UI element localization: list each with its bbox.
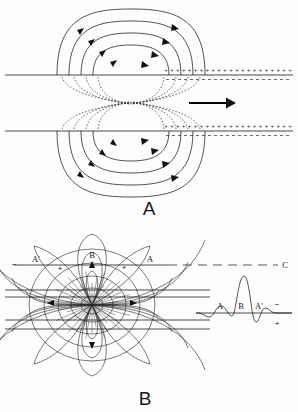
charge-symbol-positive: +	[217, 123, 221, 129]
charge-symbol-positive: +	[271, 123, 275, 129]
charge-symbol-positive: +	[276, 123, 280, 129]
panel-b-waveform: A B A′ − +	[196, 276, 292, 328]
waveform-label-b: B	[238, 301, 244, 311]
charge-symbol-positive: +	[188, 123, 192, 129]
charge-symbol-positive: +	[241, 123, 245, 129]
charge-mark-center-negative: −	[91, 260, 96, 269]
panel-a-charge-row-lower: ++++++++++++++++++++++	[164, 123, 292, 129]
panel-b-group: C A′ B A − + + − A B A′ − + B	[0, 234, 292, 409]
panel-a-letter: A	[143, 198, 156, 219]
charge-symbol-positive: +	[271, 67, 275, 73]
propagation-arrow-icon	[189, 98, 236, 109]
panel-a-charge-row-upper: ++++++++++++++++++++++	[164, 67, 292, 73]
charge-symbol-positive: +	[206, 123, 210, 129]
field-line-diagram: ++++++++++++++++++++++ +++++++++++++++++…	[0, 0, 298, 412]
waveform-polarity-positive: +	[275, 319, 280, 328]
charge-symbol-positive: +	[282, 123, 286, 129]
lead-label-c: C	[282, 260, 288, 270]
charge-symbol-positive: +	[217, 67, 221, 73]
charge-symbol-positive: +	[188, 67, 192, 73]
charge-symbol-positive: +	[235, 67, 239, 73]
charge-symbol-positive: +	[194, 67, 198, 73]
charge-symbol-positive: +	[265, 123, 269, 129]
charge-symbol-positive: +	[211, 123, 215, 129]
charge-symbol-positive: +	[288, 123, 292, 129]
charge-symbol-positive: +	[211, 67, 215, 73]
charge-symbol-positive: +	[259, 123, 263, 129]
charge-symbol-positive: +	[194, 123, 198, 129]
charge-symbol-positive: +	[235, 123, 239, 129]
charge-symbol-positive: +	[176, 123, 180, 129]
panel-a-group: ++++++++++++++++++++++ +++++++++++++++++…	[5, 9, 293, 219]
charge-symbol-positive: +	[182, 67, 186, 73]
charge-symbol-positive: +	[206, 67, 210, 73]
charge-symbol-positive: +	[247, 67, 251, 73]
charge-symbol-positive: +	[288, 67, 292, 73]
dipole-radial-line	[56, 306, 89, 320]
charge-symbol-positive: +	[276, 67, 280, 73]
field-label-a: A	[147, 254, 154, 264]
charge-mark-left-positive: +	[58, 264, 63, 273]
charge-symbol-positive: +	[182, 123, 186, 129]
charge-symbol-positive: +	[259, 67, 263, 73]
charge-symbol-positive: +	[282, 67, 286, 73]
charge-symbol-positive: +	[164, 67, 168, 73]
waveform-polarity-negative: −	[275, 300, 280, 309]
panel-a-dashed-field-lines	[62, 77, 200, 129]
charge-symbol-positive: +	[223, 123, 227, 129]
charge-symbol-positive: +	[253, 67, 257, 73]
waveform-label-a: A	[217, 301, 224, 311]
waveform-label-a-prime: A′	[255, 301, 263, 311]
figure-container: ++++++++++++++++++++++ +++++++++++++++++…	[0, 0, 298, 412]
charge-symbol-positive: +	[170, 123, 174, 129]
charge-mark-right-positive: +	[122, 263, 127, 272]
panel-b-letter: B	[139, 388, 152, 409]
panel-a-loops-below	[57, 131, 205, 197]
charge-symbol-positive: +	[241, 67, 245, 73]
charge-symbol-positive: +	[176, 67, 180, 73]
charge-symbol-positive: +	[170, 67, 174, 73]
charge-symbol-positive: +	[200, 67, 204, 73]
charge-symbol-positive: +	[229, 67, 233, 73]
charge-symbol-positive: +	[229, 123, 233, 129]
charge-mark-left-negative: −	[12, 260, 17, 269]
charge-symbol-positive: +	[223, 67, 227, 73]
charge-symbol-positive: +	[253, 123, 257, 129]
charge-symbol-positive: +	[164, 123, 168, 129]
field-label-b: B	[89, 250, 95, 260]
charge-symbol-positive: +	[247, 123, 251, 129]
panel-a-loops-above	[57, 9, 205, 75]
panel-b-field-lines	[0, 234, 205, 376]
charge-symbol-positive: +	[265, 67, 269, 73]
field-label-a-prime: A′	[32, 254, 40, 264]
charge-symbol-positive: +	[200, 123, 204, 129]
